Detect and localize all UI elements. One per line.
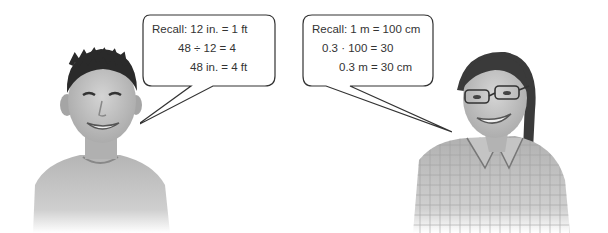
speech-bubble-right: Recall: 1 m = 100 cm 0.3 · 100 = 30 0.3 …	[302, 14, 452, 134]
bubble-line-3: 0.3 m = 30 cm	[339, 58, 412, 76]
bubble-line-2: 0.3 · 100 = 30	[322, 39, 393, 57]
bubble-line-1: Recall: 12 in. = 1 ft	[152, 20, 248, 38]
bubble-line-2: 48 ÷ 12 = 4	[178, 39, 236, 57]
bubble-line-1: Recall: 1 m = 100 cm	[312, 20, 420, 38]
speech-bubble-left: Recall: 12 in. = 1 ft 48 ÷ 12 = 4 48 in.…	[140, 14, 276, 129]
bubble-line-3: 48 in. = 4 ft	[190, 58, 247, 76]
